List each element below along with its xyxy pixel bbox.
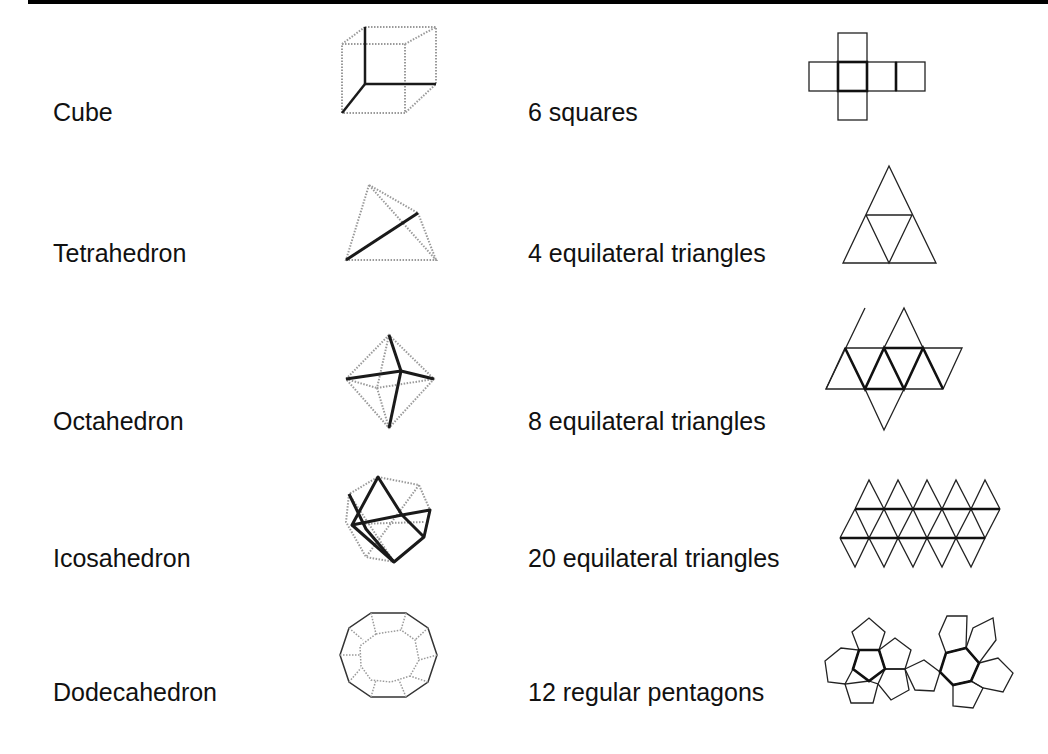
net-description-tetrahedron: 4 equilateral triangles — [528, 238, 766, 268]
tetrahedron-net-icon — [842, 165, 942, 270]
net-description-icosahedron: 20 equilateral triangles — [528, 543, 780, 573]
net-description-dodecahedron: 12 regular pentagons — [528, 677, 764, 707]
top-rule — [28, 0, 1048, 4]
solid-name-octahedron: Octahedron — [53, 406, 184, 436]
solid-name-tetrahedron: Tetrahedron — [53, 238, 186, 268]
dodecahedron-wireframe-icon — [341, 610, 441, 710]
octahedron-net-icon — [825, 307, 965, 432]
solid-name-cube: Cube — [53, 97, 113, 127]
solid-name-dodecahedron: Dodecahedron — [53, 677, 217, 707]
cube-net-icon — [808, 32, 928, 122]
cube-wireframe-icon — [340, 32, 440, 102]
net-description-cube: 6 squares — [528, 97, 638, 127]
octahedron-wireframe-icon — [344, 333, 444, 433]
dodecahedron-net-icon — [823, 608, 1013, 708]
net-description-octahedron: 8 equilateral triangles — [528, 406, 766, 436]
icosahedron-wireframe-icon — [344, 477, 444, 567]
icosahedron-net-icon — [840, 480, 1010, 570]
tetrahedron-wireframe-icon — [344, 183, 444, 263]
solid-name-icosahedron: Icosahedron — [53, 543, 191, 573]
